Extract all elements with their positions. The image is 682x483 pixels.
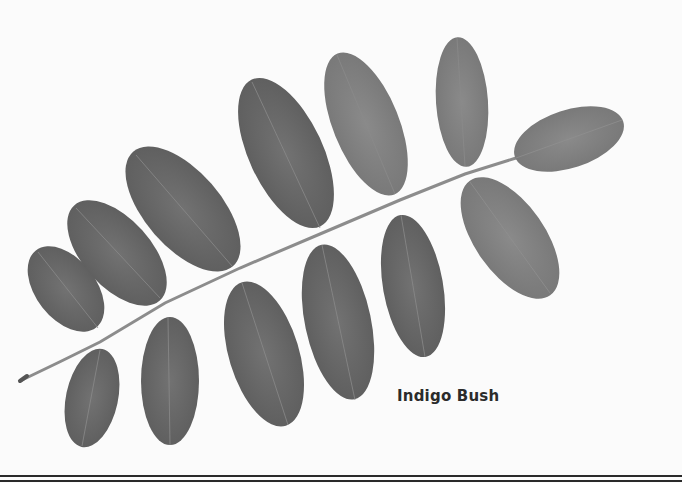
lower-leaflet-6 — [441, 161, 579, 316]
lower-leaflet-5 — [371, 210, 455, 362]
page-rule-top — [0, 475, 682, 477]
lower-leaflet-2 — [141, 317, 199, 445]
terminal-leaflet — [506, 94, 632, 184]
upper-leaflet-6 — [432, 35, 493, 168]
page-rule-bottom — [0, 480, 682, 482]
leaf-illustration — [0, 0, 682, 483]
figure-caption: Indigo Bush — [397, 387, 499, 405]
